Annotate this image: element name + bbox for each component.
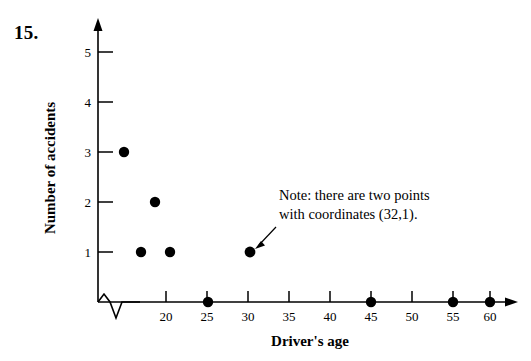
y-tick-label-5: 5 bbox=[85, 45, 92, 60]
x-axis-break-zigzag bbox=[98, 294, 140, 318]
x-tick-label-35: 35 bbox=[283, 309, 296, 324]
y-tick-labels: 5 4 3 2 1 bbox=[85, 45, 92, 260]
data-point-55-0 bbox=[448, 297, 458, 307]
two-points-note: Note: there are two points with coordina… bbox=[279, 187, 430, 223]
plot-canvas: 5 4 3 2 1 20 25 30 35 40 45 50 55 bbox=[0, 0, 531, 361]
y-axis-arrowhead bbox=[94, 18, 103, 31]
x-axis-arrowhead bbox=[505, 298, 518, 307]
y-axis bbox=[94, 18, 103, 302]
data-point-20-1 bbox=[165, 247, 175, 257]
data-point-45-0 bbox=[366, 297, 376, 307]
data-point-16-3 bbox=[119, 147, 129, 157]
leader-arrowhead-icon bbox=[255, 241, 265, 249]
y-tick-label-1: 1 bbox=[85, 245, 92, 260]
data-points bbox=[119, 147, 495, 307]
x-tick-label-20: 20 bbox=[160, 309, 173, 324]
scatter-plot-figure: 15. 5 4 3 2 1 bbox=[0, 0, 531, 361]
data-point-17-1 bbox=[136, 247, 146, 257]
data-point-60-0 bbox=[485, 297, 495, 307]
x-tick-marks bbox=[166, 291, 490, 302]
y-tick-label-4: 4 bbox=[85, 95, 92, 110]
data-point-25-0 bbox=[203, 297, 213, 307]
x-tick-label-45: 45 bbox=[365, 309, 378, 324]
x-tick-label-25: 25 bbox=[201, 309, 214, 324]
data-point-18-2 bbox=[150, 197, 160, 207]
note-line-2: with coordinates (32,1). bbox=[279, 206, 418, 223]
x-tick-label-30: 30 bbox=[242, 309, 255, 324]
annotation-leader-arrow bbox=[255, 227, 276, 249]
x-tick-label-60: 60 bbox=[484, 309, 497, 324]
x-axis-title: Driver's age bbox=[271, 333, 349, 349]
x-tick-label-50: 50 bbox=[406, 309, 419, 324]
x-tick-label-40: 40 bbox=[324, 309, 337, 324]
x-tick-labels: 20 25 30 35 40 45 50 55 60 bbox=[160, 309, 497, 324]
y-tick-label-3: 3 bbox=[85, 145, 92, 160]
note-line-1: Note: there are two points bbox=[279, 187, 430, 203]
y-tick-label-2: 2 bbox=[85, 195, 92, 210]
y-axis-title: Number of accidents bbox=[42, 102, 58, 234]
x-tick-label-55: 55 bbox=[447, 309, 460, 324]
y-tick-marks bbox=[98, 52, 113, 252]
data-point-32-1 bbox=[245, 247, 256, 258]
